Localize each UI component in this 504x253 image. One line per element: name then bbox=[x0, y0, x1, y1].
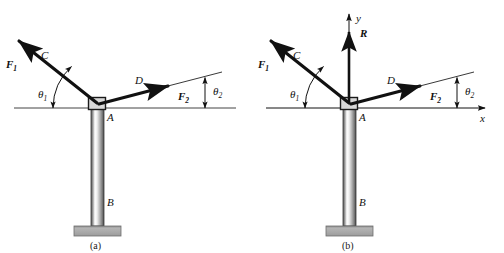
panel-a-drawing: F1 C D F2 θ1 θ2 A B (a) bbox=[0, 0, 252, 253]
label-angle-theta2-b: θ2 bbox=[465, 85, 474, 100]
label-cable-c-a: C bbox=[41, 49, 49, 61]
label-force-f2-a: F2 bbox=[177, 90, 189, 105]
figure-container: F1 C D F2 θ1 θ2 A B (a) bbox=[0, 0, 504, 253]
label-axis-y-b: y bbox=[355, 12, 361, 24]
diagram-panel-a: F1 C D F2 θ1 θ2 A B (a) bbox=[0, 0, 252, 253]
label-pole-base-b-a: B bbox=[107, 196, 114, 208]
angle-theta1-arc-b bbox=[305, 67, 324, 109]
cable-d-force-f2-a bbox=[99, 86, 168, 104]
pole-base-plate-a bbox=[74, 226, 121, 236]
cable-c-force-f1-b bbox=[271, 41, 349, 103]
label-force-f1-b: F1 bbox=[257, 58, 269, 73]
cable-d-force-f2-b bbox=[351, 86, 420, 104]
label-cable-d-a: D bbox=[134, 74, 143, 86]
panel-caption-a: (a) bbox=[90, 240, 101, 252]
panel-b-drawing: y x R F1 C D F2 θ1 θ2 A B (b) bbox=[252, 0, 504, 253]
label-cable-d-b: D bbox=[386, 74, 395, 86]
label-joint-a-a: A bbox=[106, 111, 114, 123]
cable-c-force-f1-a bbox=[19, 41, 97, 103]
label-cable-c-b: C bbox=[293, 49, 301, 61]
panel-caption-b: (b) bbox=[342, 240, 354, 252]
label-pole-base-b-b: B bbox=[359, 196, 366, 208]
angle-theta1-arc-a bbox=[53, 67, 72, 109]
label-angle-theta1-b: θ1 bbox=[290, 88, 299, 103]
label-force-f2-b: F2 bbox=[429, 90, 441, 105]
label-force-f1-a: F1 bbox=[5, 58, 17, 73]
label-angle-theta1-a: θ1 bbox=[38, 88, 47, 103]
pole-shaft-b bbox=[343, 104, 356, 226]
label-angle-theta2-a: θ2 bbox=[213, 85, 222, 100]
label-resultant-r-b: R bbox=[359, 27, 367, 39]
diagram-panel-b: y x R F1 C D F2 θ1 θ2 A B (b) bbox=[252, 0, 504, 253]
pole-shaft-a bbox=[91, 104, 104, 226]
label-axis-x-b: x bbox=[479, 112, 485, 124]
label-joint-a-b: A bbox=[358, 111, 366, 123]
pole-base-plate-b bbox=[326, 226, 373, 236]
